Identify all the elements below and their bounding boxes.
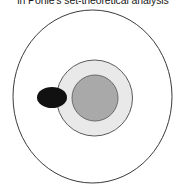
figure-container: in Pohle's set-theoretical analysis [0,0,186,192]
inner-set-circle [72,75,118,121]
venn-diagram [0,0,186,192]
overlapping-element-ellipse [37,87,67,108]
